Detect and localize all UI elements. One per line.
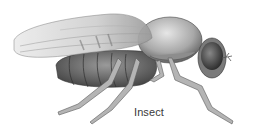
insect-illustration <box>0 0 253 135</box>
head <box>198 38 232 78</box>
insect-label: Insect <box>134 106 164 118</box>
compound-eye <box>201 42 223 70</box>
